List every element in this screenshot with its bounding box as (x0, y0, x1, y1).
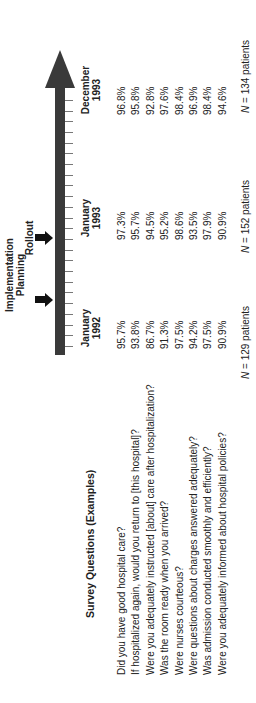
timeline-tick (65, 186, 73, 187)
value-cell: 98.4% (201, 87, 215, 115)
down-arrow-icon (35, 235, 45, 242)
value-cell: 91.3% (158, 321, 172, 349)
timeline-tick (65, 260, 73, 261)
value-cell: 95.7% (129, 212, 143, 240)
timeline-tick (65, 143, 73, 144)
column-header-jan-1993: January 1993 (80, 188, 102, 248)
question-row: Were you adequately instructed [about] c… (144, 384, 158, 675)
timeline-tick (65, 153, 73, 154)
survey-figure: Survey Questions (Examples) Implementati… (0, 0, 256, 703)
timeline-tick (65, 271, 73, 272)
value-cell: 93.8% (129, 321, 143, 349)
timeline-tick (65, 314, 73, 315)
value-cell: 97.3% (115, 212, 129, 240)
column-header-dec-1993: December 1993 (80, 60, 102, 120)
timeline-tick (65, 325, 73, 326)
milestone-implementation-planning-marker (35, 293, 53, 307)
value-cell: 98.6% (173, 212, 187, 240)
timeline-tick (65, 218, 73, 219)
timeline-tick (65, 303, 73, 304)
value-cell: 92.8% (144, 87, 158, 115)
timeline-tick (65, 121, 73, 122)
sample-size-jan-1992: N = 129 patients (240, 306, 251, 379)
value-cell: 97.6% (158, 87, 172, 115)
timeline-tick (65, 111, 73, 112)
value-cell: 95.8% (129, 87, 143, 115)
values-dec-1993: 96.8% 95.8% 92.8% 97.6% 98.4% 96.9% 98.4… (115, 87, 230, 115)
value-cell: 95.7% (115, 321, 129, 349)
question-row: Were questions about charges answered ad… (187, 384, 201, 675)
milestone-rollout-label: Rollout (24, 213, 35, 263)
timeline-tick (65, 196, 73, 197)
value-cell: 98.4% (173, 87, 187, 115)
value-cell: 97.5% (173, 321, 187, 349)
question-row: Was the room ready when you arrived? (158, 384, 172, 675)
question-row: Did you have good hospital care? (115, 384, 129, 675)
milestone-rollout-marker (35, 231, 53, 245)
value-cell: 96.8% (115, 87, 129, 115)
question-row: Were nurses courteous? (173, 384, 187, 675)
value-cell: 97.5% (201, 321, 215, 349)
down-arrow-head-icon (45, 293, 53, 307)
value-cell: 86.7% (144, 321, 158, 349)
figure-title: Survey Questions (Examples) (84, 470, 96, 618)
value-cell: 94.6% (216, 87, 230, 115)
value-cell: 90.9% (216, 321, 230, 349)
timeline-tick (65, 228, 73, 229)
timeline-tick (65, 207, 73, 208)
timeline-tick (65, 164, 73, 165)
timeline-bar (55, 85, 65, 355)
timeline-tick (65, 132, 73, 133)
down-arrow-head-icon (45, 231, 53, 245)
value-cell: 96.9% (187, 87, 201, 115)
question-row: If hospitalized again, would you return … (129, 384, 143, 675)
value-cell: 90.9% (216, 212, 230, 240)
timeline-tick (65, 239, 73, 240)
timeline-tick (65, 293, 73, 294)
timeline-tick (65, 250, 73, 251)
timeline-tick (65, 175, 73, 176)
question-row: Were you adequately informed about hospi… (216, 384, 230, 675)
question-row: Was admission conducted smoothly and eff… (201, 384, 215, 675)
value-cell: 94.5% (144, 212, 158, 240)
timeline-tick (65, 346, 73, 347)
column-header-jan-1992: January 1992 (80, 298, 102, 358)
values-jan-1993: 97.3% 95.7% 94.5% 95.2% 98.6% 93.5% 97.9… (115, 212, 230, 240)
values-jan-1992: 95.7% 93.8% 86.7% 91.3% 97.5% 94.2% 97.5… (115, 321, 230, 349)
timeline-arrowhead-icon (45, 50, 75, 88)
sample-size-jan-1993: N = 152 patients (240, 180, 251, 253)
value-cell: 94.2% (187, 321, 201, 349)
timeline-tick (65, 100, 73, 101)
value-cell: 95.2% (158, 212, 172, 240)
timeline-tick (65, 282, 73, 283)
sample-size-dec-1993: N = 134 patients (240, 40, 251, 113)
value-cell: 93.5% (187, 212, 201, 240)
value-cell: 97.9% (201, 212, 215, 240)
down-arrow-icon (35, 297, 45, 304)
timeline-tick (65, 335, 73, 336)
milestone-implementation-planning-label: Implementation Planning (4, 235, 26, 315)
questions-list: Did you have good hospital care? If hosp… (115, 384, 230, 675)
